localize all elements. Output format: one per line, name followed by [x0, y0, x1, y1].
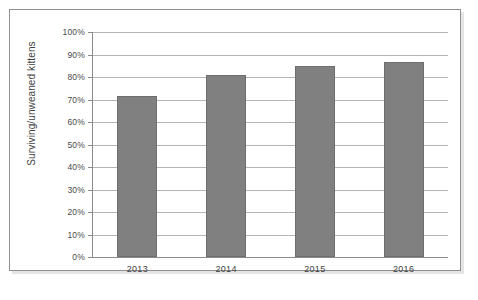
- gridline: [93, 55, 448, 56]
- y-tick-label: 50%: [45, 140, 85, 150]
- y-tick-label-wrap: 80%: [40, 72, 85, 82]
- chart-figure: Surviving/unweaned kittens 0%10%20%30%40…: [0, 0, 478, 300]
- y-tick-label: 10%: [45, 230, 85, 240]
- y-tick-label: 70%: [45, 95, 85, 105]
- y-tick-label: 30%: [45, 185, 85, 195]
- y-tick-label: 80%: [45, 72, 85, 82]
- bar-2014: [206, 75, 246, 257]
- x-axis-label: 2015: [285, 264, 345, 274]
- x-axis-label: 2013: [107, 264, 167, 274]
- y-tick-label-wrap: 100%: [40, 27, 85, 37]
- bar-2016: [384, 62, 424, 257]
- y-axis-title: Surviving/unweaned kittens: [26, 0, 37, 214]
- y-tick-label-wrap: 70%: [40, 95, 85, 105]
- y-tick-label-wrap: 60%: [40, 117, 85, 127]
- plot-area: [93, 32, 448, 257]
- y-tick-label-wrap: 40%: [40, 162, 85, 172]
- y-tick-label: 90%: [45, 50, 85, 60]
- y-tick-label-wrap: 30%: [40, 185, 85, 195]
- bar-2015: [295, 66, 335, 257]
- y-tick-label: 100%: [45, 27, 85, 37]
- gridline: [93, 257, 448, 258]
- y-tick-label-wrap: 20%: [40, 207, 85, 217]
- gridline: [93, 32, 448, 33]
- y-tick-label-wrap: 90%: [40, 50, 85, 60]
- y-tick-label: 0%: [45, 252, 85, 262]
- y-tick-label: 60%: [45, 117, 85, 127]
- x-axis-label: 2014: [196, 264, 256, 274]
- y-tick-label-wrap: 0%: [40, 252, 85, 262]
- y-tick-label-wrap: 10%: [40, 230, 85, 240]
- bar-2013: [117, 96, 157, 257]
- y-tick-label: 20%: [45, 207, 85, 217]
- y-tick-label: 40%: [45, 162, 85, 172]
- y-tick-label-wrap: 50%: [40, 140, 85, 150]
- x-axis-label: 2016: [374, 264, 434, 274]
